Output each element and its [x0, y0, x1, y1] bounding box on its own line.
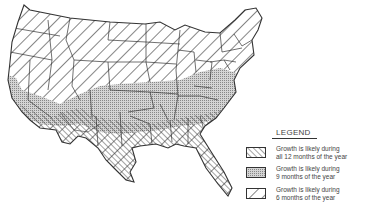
legend-label-line2: all 12 months of the year — [276, 153, 347, 161]
legend-label-line1: Growth is likely during — [276, 145, 347, 153]
hatch-forward-swatch-icon — [246, 147, 266, 158]
legend-label-line2: 9 months of the year — [276, 173, 340, 181]
legend-label-line1: Growth is likely during — [276, 186, 340, 194]
hatch-back-swatch-icon — [246, 188, 266, 199]
legend-item-12-months: Growth is likely during all 12 months of… — [246, 146, 368, 166]
legend-item-6-months: Growth is likely during 6 months of the … — [246, 187, 368, 207]
legend-label-line1: Growth is likely during — [276, 165, 340, 173]
legend-item-9-months: Growth is likely during 9 months of the … — [246, 166, 368, 186]
legend-title: LEGEND — [272, 128, 317, 139]
legend-label-line2: 6 months of the year — [276, 194, 340, 202]
stipple-swatch-icon — [246, 167, 266, 178]
